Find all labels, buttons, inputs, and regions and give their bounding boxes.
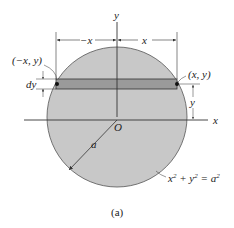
neg-x-label: −x (80, 34, 92, 46)
pos-x-label: x (141, 34, 147, 46)
strip-element (56, 79, 177, 89)
figure: y x O −x x (−x, y) (x, y) dy y a x2 + y2… (0, 0, 234, 228)
circle-diagram: y x O −x x (−x, y) (x, y) dy y a x2 + y2… (0, 0, 234, 228)
x-axis-label: x (212, 114, 218, 126)
origin-label: O (114, 121, 122, 133)
dy-label: dy (26, 78, 37, 90)
figure-caption: (a) (111, 206, 124, 219)
left-point-label: (−x, y) (12, 54, 42, 67)
circle-equation: x2 + y2 = a2 (167, 172, 220, 184)
right-point-label: (x, y) (188, 68, 211, 81)
y-axis-label: y (113, 9, 119, 21)
radius-label: a (91, 138, 97, 150)
left-point-dot (55, 82, 59, 86)
y-height-label: y (189, 96, 195, 108)
